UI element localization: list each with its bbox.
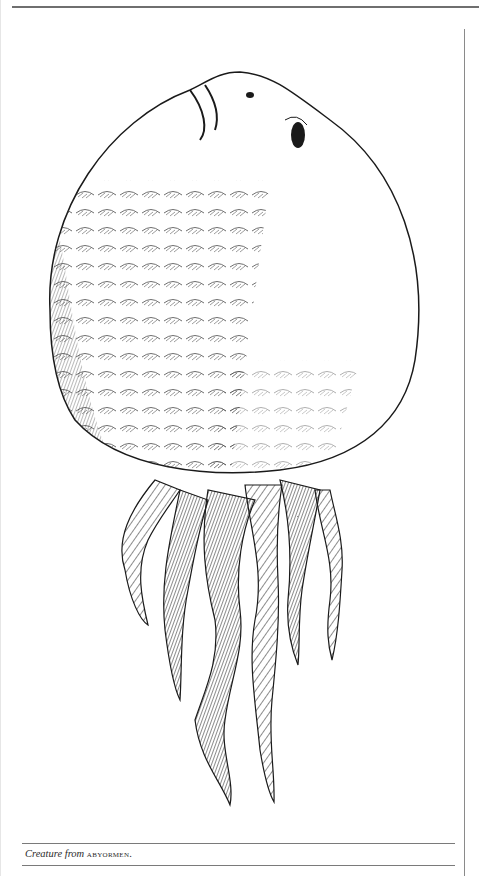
creature-body	[50, 72, 419, 480]
caption-title-smallcaps: abyormen	[87, 848, 129, 859]
page-left-edge	[0, 0, 1, 876]
caption-rule-top	[22, 843, 455, 844]
right-margin-rule	[464, 29, 465, 876]
creature-illustration	[30, 60, 440, 820]
caption-rule-bottom	[22, 865, 455, 866]
tentacles	[122, 480, 342, 805]
caption-italic-text: Creature from	[25, 848, 84, 859]
top-rule	[12, 6, 479, 8]
figure-caption: Creature from abyormen.	[25, 847, 132, 861]
caption-period: .	[129, 848, 132, 859]
